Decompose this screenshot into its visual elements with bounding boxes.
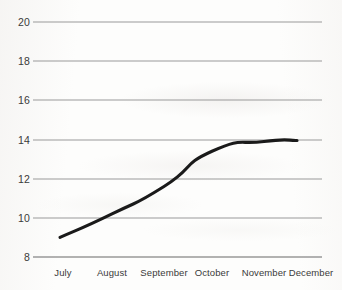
y-tick-label-16: 16 (8, 95, 30, 106)
x-tick-label-december: December (289, 268, 334, 278)
y-tick-label-8: 8 (8, 252, 30, 263)
y-gridlines (33, 22, 322, 218)
x-tick-label-november: November (242, 268, 287, 278)
plot-area (0, 0, 342, 290)
y-tick-label-12: 12 (8, 174, 30, 185)
x-tick-label-october: October (195, 268, 230, 278)
x-tick-label-september: September (140, 268, 187, 278)
line-chart-figure: 20 18 16 14 12 10 8 July August Septembe… (0, 0, 342, 290)
data-series-line (60, 140, 297, 238)
y-tick-label-18: 18 (8, 56, 30, 67)
y-tick-label-14: 14 (8, 135, 30, 146)
y-tick-label-20: 20 (8, 17, 30, 28)
y-tick-label-10: 10 (8, 213, 30, 224)
x-tick-label-july: July (54, 268, 71, 278)
x-tick-label-august: August (97, 268, 127, 278)
